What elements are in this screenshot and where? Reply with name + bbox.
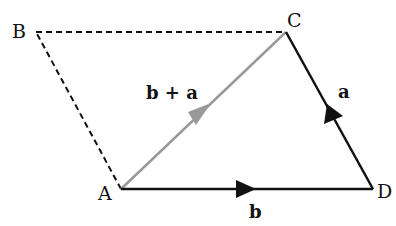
point-label-a: A	[97, 182, 112, 204]
vector-label-sum: b + a	[146, 82, 198, 103]
point-label-c: C	[287, 9, 302, 31]
point-label-d: D	[377, 180, 392, 202]
arrowhead-b-icon	[236, 180, 256, 198]
point-label-b: B	[12, 20, 26, 42]
arrowhead-a-icon	[324, 104, 343, 124]
vector-label-a: a	[338, 81, 350, 102]
vector-label-b: b	[249, 201, 262, 222]
vector-parallelogram-diagram: B C A D b + a a b	[0, 0, 396, 226]
dashed-edge-ab	[36, 32, 121, 189]
